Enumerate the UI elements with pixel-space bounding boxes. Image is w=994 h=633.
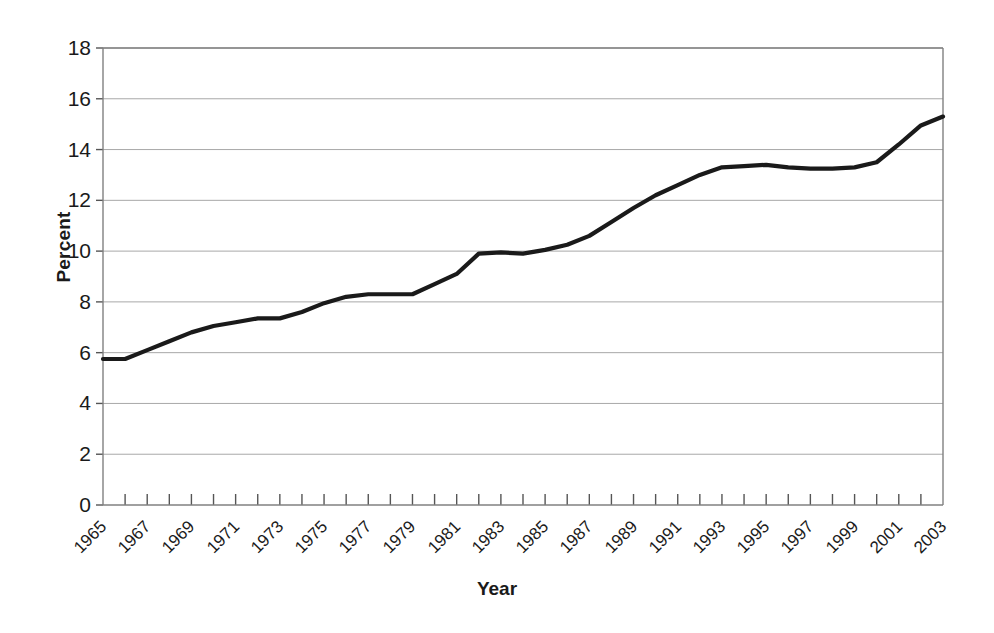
gridlines xyxy=(103,48,943,454)
data-series-line xyxy=(103,117,943,359)
axis-tick-marks xyxy=(96,48,921,505)
chart-container: Percent Year 024681012141618 19651967196… xyxy=(0,0,994,633)
plot-frame xyxy=(103,48,943,505)
line-chart-plot xyxy=(0,0,994,633)
